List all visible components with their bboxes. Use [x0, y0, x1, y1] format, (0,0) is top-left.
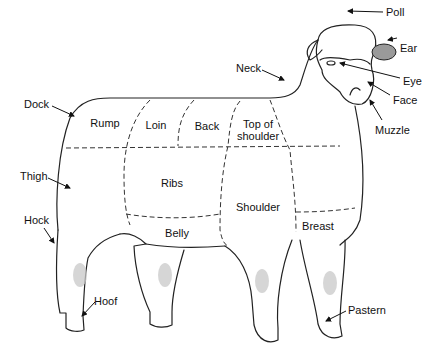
- label-muzzle: Muzzle: [375, 124, 410, 136]
- region-ribs: Ribs: [161, 177, 184, 189]
- ear-shaded: [372, 44, 396, 60]
- cut-line-belly: [126, 214, 220, 218]
- neck-arrow: [262, 70, 284, 80]
- label-dock: Dock: [24, 98, 50, 110]
- label-thigh: Thigh: [20, 170, 48, 182]
- label-ear: Ear: [400, 42, 417, 54]
- chest-outline: [340, 106, 363, 245]
- region-belly: Belly: [165, 227, 189, 239]
- rear-leg: [56, 230, 120, 331]
- region-rump: Rump: [90, 117, 119, 129]
- cut-line-breast: [296, 208, 355, 212]
- label-pastern: Pastern: [348, 304, 386, 316]
- cut-line-upper: [66, 146, 340, 148]
- knee-shade-2: [158, 263, 172, 287]
- belly-line: [146, 244, 225, 247]
- label-face: Face: [393, 94, 417, 106]
- region-top-of-shoulder-2: shoulder: [237, 130, 280, 142]
- muzzle-arrow: [370, 100, 382, 120]
- region-loin: Loin: [146, 119, 167, 131]
- label-hock: Hock: [24, 214, 50, 226]
- front-leg-2: [300, 240, 345, 338]
- knee-shade-4: [323, 271, 337, 295]
- ear-arrow: [388, 38, 397, 40]
- pastern-arrow: [326, 311, 346, 321]
- eye-arrow: [340, 63, 400, 78]
- region-breast: Breast: [302, 220, 334, 232]
- knee-shade-3: [255, 269, 269, 293]
- sheep-diagram: Poll Ear Eye Face Muzzle Neck Dock Thigh…: [0, 0, 444, 359]
- rear-leg-2: [120, 234, 184, 328]
- region-shoulder: Shoulder: [236, 201, 280, 213]
- cut-line-back-top: [220, 101, 240, 246]
- label-neck: Neck: [236, 62, 262, 74]
- label-poll: Poll: [386, 6, 404, 18]
- knee-shade-1: [73, 263, 87, 287]
- cut-line-loin-back: [178, 100, 194, 146]
- sheep-drawing: Poll Ear Eye Face Muzzle Neck Dock Thigh…: [0, 0, 444, 359]
- poll-arrow: [348, 11, 383, 12]
- label-hoof: Hoof: [94, 295, 118, 307]
- label-eye: Eye: [403, 75, 422, 87]
- dock-arrow: [52, 106, 74, 116]
- eye-shape: [327, 61, 335, 65]
- thigh-arrow: [48, 178, 70, 188]
- region-back: Back: [195, 120, 220, 132]
- hock-arrow: [44, 228, 54, 243]
- region-top-of-shoulder-1: Top of: [243, 118, 274, 130]
